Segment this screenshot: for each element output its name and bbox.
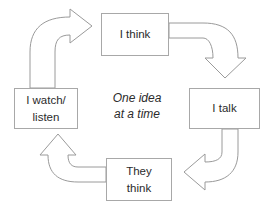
- node-i-watch-listen-label-line1: I watch/: [26, 92, 66, 109]
- node-i-think[interactable]: I think: [101, 13, 169, 56]
- center-caption-line1: One idea: [88, 90, 186, 106]
- arrow-watch-to-think: [30, 9, 92, 88]
- node-i-watch-listen-label-line2: listen: [33, 109, 60, 126]
- arrow-talk-to-they-think: [184, 129, 238, 190]
- node-i-think-label: I think: [120, 26, 151, 43]
- node-i-talk-label: I talk: [212, 100, 236, 117]
- center-caption-line2: at a time: [88, 106, 186, 122]
- node-i-watch-listen[interactable]: I watch/ listen: [14, 88, 78, 129]
- node-i-talk[interactable]: I talk: [189, 88, 260, 129]
- arrow-think-to-talk: [169, 23, 246, 78]
- center-caption: One idea at a time: [88, 90, 186, 122]
- node-they-think-label-line1: They: [126, 163, 152, 180]
- cycle-diagram: I think I talk They think I watch/ liste…: [0, 0, 273, 215]
- node-they-think[interactable]: They think: [106, 158, 172, 201]
- arrow-they-think-to-watch: [40, 134, 106, 182]
- node-they-think-label-line2: think: [127, 180, 151, 197]
